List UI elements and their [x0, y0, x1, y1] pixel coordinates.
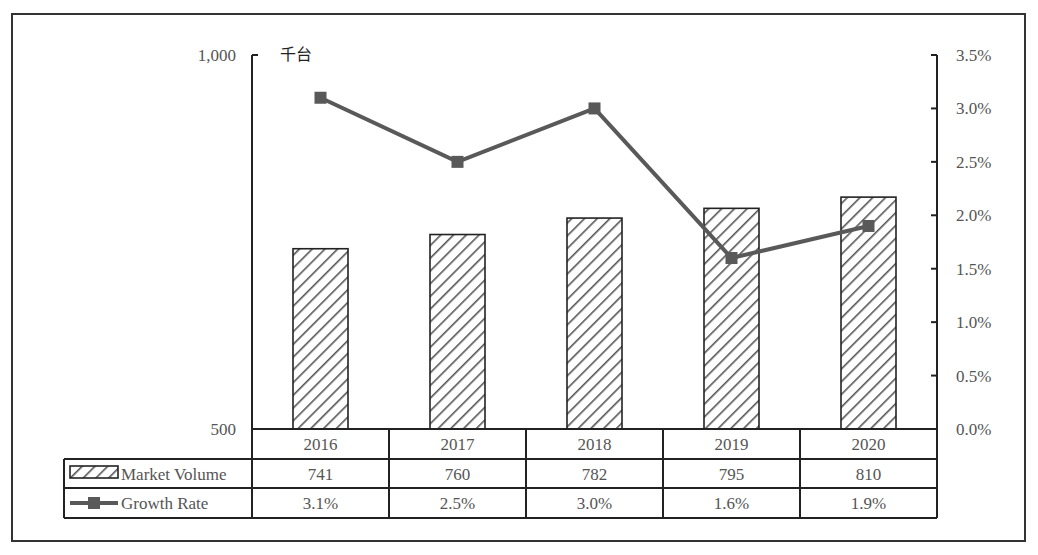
table-cell: 810	[856, 465, 882, 484]
right-axis-tick-label: 3.0%	[956, 99, 991, 118]
right-axis-tick-label: 1.0%	[956, 313, 991, 332]
combo-chart: 20162017201820192020741760782795810Marke…	[0, 0, 1038, 555]
legend-label: Market Volume	[121, 465, 227, 484]
right-axis-tick-label: 2.5%	[956, 153, 991, 172]
table-cell: 760	[445, 465, 471, 484]
right-axis-tick-label: 3.5%	[956, 46, 991, 65]
right-axis-tick-label: 1.5%	[956, 260, 991, 279]
right-axis-tick-label: 0.5%	[956, 367, 991, 386]
table-header-cell: 2017	[441, 435, 476, 454]
table-cell: 1.9%	[851, 494, 886, 513]
bar-2019	[704, 208, 759, 429]
table-cell: 3.0%	[577, 494, 612, 513]
right-axis-tick-label: 2.0%	[956, 206, 991, 225]
legend-hatch-icon	[70, 466, 118, 478]
table-cell: 2.5%	[440, 494, 475, 513]
bar-2017	[430, 235, 485, 429]
left-axis-tick-label: 1,000	[198, 46, 236, 65]
bar-series-market-volume	[293, 197, 896, 429]
table-cell: 795	[719, 465, 745, 484]
marker-2017	[452, 156, 464, 168]
right-axis-tick-label: 0.0%	[956, 420, 991, 439]
bar-2016	[293, 249, 348, 429]
marker-2020	[863, 220, 875, 232]
legend-label: Growth Rate	[121, 494, 208, 513]
table-cell: 782	[582, 465, 608, 484]
data-table: 20162017201820192020741760782795810Marke…	[64, 429, 937, 518]
marker-2016	[315, 92, 327, 104]
table-cell: 3.1%	[303, 494, 338, 513]
legend-marker-icon	[88, 497, 100, 509]
table-cell: 741	[308, 465, 334, 484]
table-header-cell: 2020	[852, 435, 886, 454]
unit-label: 千台	[280, 45, 312, 64]
left-axis-tick-label: 500	[211, 420, 237, 439]
marker-2019	[726, 252, 738, 264]
bar-2018	[567, 218, 622, 429]
table-header-cell: 2019	[715, 435, 749, 454]
table-header-cell: 2018	[578, 435, 612, 454]
table-header-cell: 2016	[304, 435, 338, 454]
table-cell: 1.6%	[714, 494, 749, 513]
marker-2018	[589, 102, 601, 114]
